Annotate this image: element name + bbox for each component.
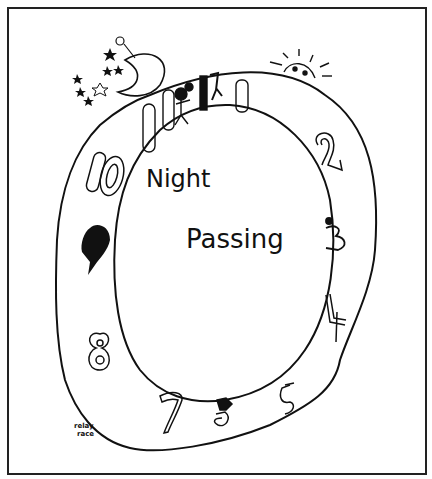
night-passing-drawing: Night Passing relay race <box>0 0 432 479</box>
caption-line-1: relay <box>74 422 94 430</box>
caption-line-2: race <box>77 430 94 438</box>
title-line-2: Passing <box>186 224 284 254</box>
title-line-1: Night <box>146 165 210 193</box>
